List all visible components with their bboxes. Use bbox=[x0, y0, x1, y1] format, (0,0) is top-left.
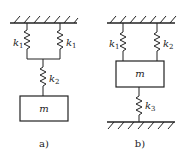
fig-b-floor bbox=[107, 122, 175, 129]
fig-a-spring-k1-right bbox=[57, 23, 63, 59]
spring-mass-diagrams: k1 k1 k2 m a) k1 k2 m k3 b) bbox=[0, 0, 188, 158]
fig-b-k1-label: k1 bbox=[109, 38, 120, 51]
fig-a-k1-right-label: k1 bbox=[66, 37, 77, 50]
fig-a-k1-left-label: k1 bbox=[13, 37, 24, 50]
fig-a-spring-k2 bbox=[40, 59, 46, 96]
fig-b-spring-k1 bbox=[120, 23, 126, 61]
fig-b-ceiling bbox=[107, 16, 176, 23]
fig-a-caption: a) bbox=[39, 138, 49, 149]
fig-b-spring-k3 bbox=[136, 87, 142, 122]
fig-a-spring-k1-left bbox=[24, 23, 30, 59]
fig-b-caption: b) bbox=[135, 138, 145, 149]
fig-b-k3-label: k3 bbox=[145, 100, 156, 113]
fig-a-mass-label: m bbox=[39, 103, 48, 114]
fig-b-mass-label: m bbox=[135, 68, 144, 79]
fig-a-ceiling bbox=[10, 16, 78, 23]
fig-b-k2-label: k2 bbox=[163, 38, 174, 51]
fig-a-k2-label: k2 bbox=[49, 73, 60, 86]
fig-b-spring-k2 bbox=[154, 23, 160, 61]
